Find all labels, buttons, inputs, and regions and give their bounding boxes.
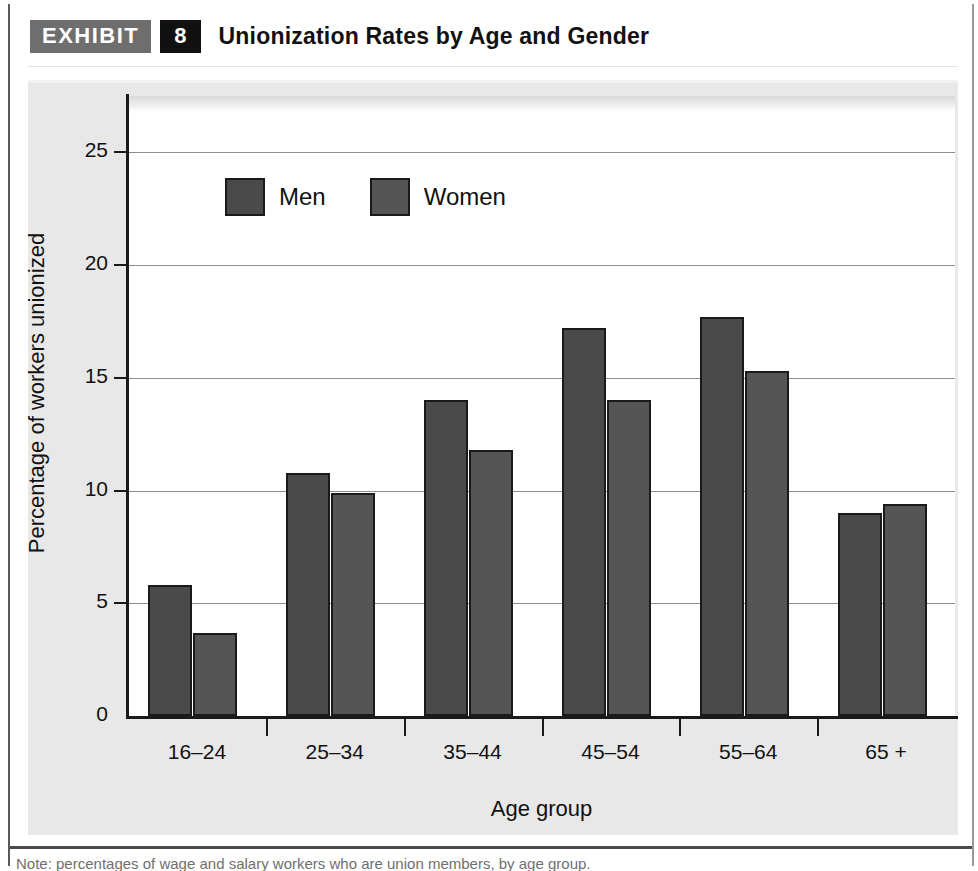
page-left-rule — [8, 4, 10, 866]
legend-item: Men — [225, 178, 326, 216]
chart-legend: MenWomen — [225, 178, 550, 216]
page-bottom-rule — [10, 846, 972, 849]
y-axis-tick-label: 10 — [64, 477, 108, 501]
y-axis-title: Percentage of workers unionized — [24, 113, 50, 673]
y-axis-tick — [114, 264, 128, 266]
x-axis-tick — [404, 719, 406, 736]
plot-area-top-shading — [128, 96, 955, 112]
y-axis-tick-label: 20 — [64, 251, 108, 275]
panel-highlight — [28, 80, 958, 83]
y-axis-tick — [114, 151, 128, 153]
bar — [562, 328, 606, 716]
x-axis-tick-label: 55–64 — [679, 740, 817, 764]
bar — [331, 493, 375, 716]
y-axis-tick-label: 0 — [64, 702, 108, 726]
figure-caption: Note: percentages of wage and salary wor… — [16, 856, 956, 871]
y-axis-tick — [114, 602, 128, 604]
bar — [745, 371, 789, 716]
x-axis-tick — [817, 719, 819, 736]
x-axis-tick-label: 65 + — [817, 740, 955, 764]
bar — [424, 400, 468, 716]
x-axis-tick — [679, 719, 681, 736]
gridline — [128, 378, 955, 379]
bar — [193, 633, 237, 716]
legend-swatch — [370, 178, 410, 216]
exhibit-header: EXHIBIT 8 Unionization Rates by Age and … — [30, 18, 649, 54]
x-axis-tick — [266, 719, 268, 736]
gridline — [128, 265, 955, 266]
bar — [883, 504, 927, 716]
y-axis-tick — [114, 377, 128, 379]
bar — [607, 400, 651, 716]
legend-label: Women — [424, 183, 506, 211]
x-axis-title: Age group — [128, 796, 955, 822]
gridline — [128, 491, 955, 492]
bar — [286, 473, 330, 716]
x-axis-tick-label: 25–34 — [266, 740, 404, 764]
y-axis-tick-label: 25 — [64, 138, 108, 162]
x-axis-tick — [542, 719, 544, 736]
y-axis-tick — [114, 490, 128, 492]
gridline — [128, 152, 955, 153]
x-axis-tick-label: 35–44 — [404, 740, 542, 764]
legend-label: Men — [279, 183, 326, 211]
legend-item: Women — [370, 178, 506, 216]
header-divider — [28, 66, 958, 67]
y-axis-tick-label: 5 — [64, 589, 108, 613]
y-axis-line — [126, 94, 129, 719]
page-right-rule — [972, 4, 974, 866]
bar — [838, 513, 882, 716]
gridline — [128, 603, 955, 604]
bar — [469, 450, 513, 716]
bar — [700, 317, 744, 716]
exhibit-title: Unionization Rates by Age and Gender — [219, 23, 650, 50]
x-axis-tick-label: 45–54 — [542, 740, 680, 764]
exhibit-number-badge: 8 — [160, 20, 200, 53]
x-axis-tick-label: 16–24 — [128, 740, 266, 764]
bar — [148, 585, 192, 716]
exhibit-label: EXHIBIT — [30, 20, 151, 53]
y-axis-tick-label: 15 — [64, 364, 108, 388]
exhibit-page: EXHIBIT 8 Unionization Rates by Age and … — [0, 0, 978, 871]
legend-swatch — [225, 178, 265, 216]
